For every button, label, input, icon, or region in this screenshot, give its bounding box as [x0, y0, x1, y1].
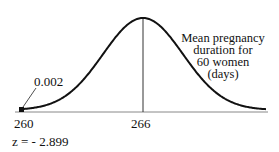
leader-line: [23, 88, 36, 107]
tick-266: 266: [131, 118, 151, 130]
curve-label-line: (days): [178, 68, 268, 80]
tail-area-marker: [19, 107, 24, 112]
tail-area-label: 0.002: [34, 76, 63, 88]
z-score-label: z = - 2.899: [12, 136, 68, 148]
tick-260: 260: [14, 118, 34, 130]
curve-label: Mean pregnancy duration for 60 women (da…: [178, 32, 268, 80]
